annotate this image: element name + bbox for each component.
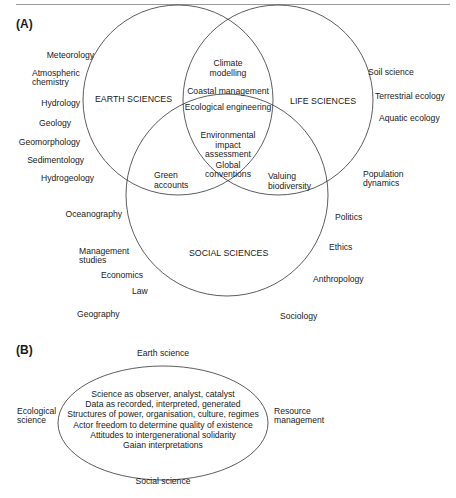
- discipline-hydrogeology: Hydrogeology: [41, 173, 94, 184]
- ellipse-line: Gaian interpretations: [67, 440, 259, 450]
- discipline-politics: Politics: [335, 212, 362, 223]
- life-sciences-title: LIFE SCIENCES: [290, 96, 356, 107]
- discipline-geology: Geology: [39, 118, 71, 129]
- discipline-atmospheric-2: chemistry: [32, 77, 69, 88]
- social-sciences-circle: [126, 94, 328, 296]
- overlap-valuing-1: Valuing: [268, 171, 296, 182]
- overlap-climate-2: modelling: [210, 68, 247, 79]
- discipline-oceanography: Oceanography: [66, 209, 122, 220]
- social-sciences-title: SOCIAL SCIENCES: [189, 248, 268, 259]
- discipline-sedimentology: Sedimentology: [27, 155, 84, 166]
- ellipse-line: Science as observer, analyst, catalyst: [67, 389, 259, 399]
- ellipse-text-block: Science as observer, analyst, catalyst D…: [67, 389, 259, 450]
- panel-b-top-label: Earth science: [137, 348, 189, 359]
- overlap-eia-3: assessment: [205, 149, 251, 160]
- discipline-geography: Geography: [77, 309, 120, 320]
- overlap-green-2: accounts: [154, 180, 188, 191]
- overlap-valuing-2: biodiversity: [268, 181, 311, 192]
- discipline-hydrology: Hydrology: [41, 98, 80, 109]
- earth-sciences-title: EARTH SCIENCES: [95, 94, 172, 105]
- panel-b-right-label-2: management: [274, 415, 324, 426]
- ellipse-line: Data as recorded, interpreted, generated: [67, 399, 259, 409]
- discipline-ethics: Ethics: [329, 242, 352, 253]
- discipline-terrestrial-ecology: Terrestrial ecology: [375, 91, 445, 102]
- ellipse-line: Attitudes to intergenerational solidarit…: [67, 430, 259, 440]
- overlap-eia-1: Environmental: [201, 130, 256, 141]
- panel-b-bottom-label: Social science: [136, 476, 191, 487]
- panel-b-label: (B): [16, 343, 33, 357]
- panel-a-label: (A): [16, 17, 33, 31]
- discipline-geomorphology: Geomorphology: [19, 137, 80, 148]
- discipline-soil-science: Soil science: [368, 67, 414, 78]
- discipline-law: Law: [132, 286, 148, 297]
- overlap-green-1: Green: [154, 170, 178, 181]
- overlap-climate-1: Climate: [213, 58, 242, 69]
- overlap-ecological-eng: Ecological engineering: [185, 102, 271, 113]
- discipline-sociology: Sociology: [280, 311, 317, 322]
- ellipse-line: Structures of power, organisation, cultu…: [67, 409, 259, 419]
- overlap-coastal: Coastal management: [187, 86, 269, 97]
- discipline-anthropology: Anthropology: [313, 274, 364, 285]
- ellipse-line: Actor freedom to determine quality of ex…: [67, 420, 259, 430]
- discipline-economics: Economics: [101, 270, 143, 281]
- panel-b-left-label-2: science: [17, 415, 46, 426]
- discipline-population-2: dynamics: [363, 178, 399, 189]
- discipline-management-2: studies: [79, 255, 106, 266]
- discipline-aquatic-ecology: Aquatic ecology: [379, 113, 440, 124]
- discipline-meteorology: Meteorology: [47, 50, 94, 61]
- overlap-global-2: conventions: [205, 169, 251, 180]
